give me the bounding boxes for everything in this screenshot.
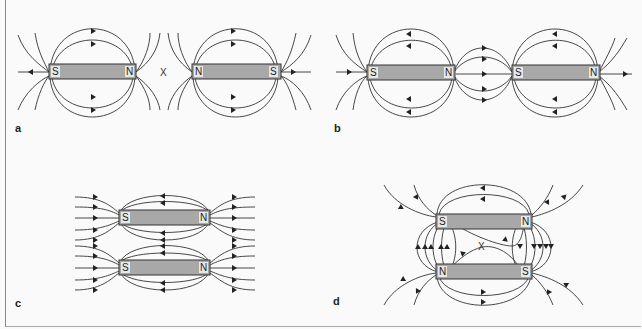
arrow-head: [480, 185, 485, 191]
arrow-head: [232, 227, 237, 233]
pole-label: N: [126, 66, 133, 77]
arrow-head: [93, 265, 98, 271]
arrow-head: [160, 243, 165, 249]
arrow-head: [160, 200, 165, 206]
arrow-head: [543, 244, 549, 249]
arrow-head: [482, 45, 487, 51]
arrow-head: [28, 69, 33, 75]
magnet: N S: [436, 264, 532, 279]
field-line: [599, 38, 615, 72]
arrow-head: [482, 97, 487, 103]
arrow-head: [480, 196, 485, 202]
arrow-head: [552, 43, 557, 49]
panel-label-c: c: [15, 297, 21, 309]
arrow-head: [232, 253, 237, 259]
arrow-head: [481, 289, 486, 295]
arrow-head: [232, 265, 237, 271]
arrow-head: [444, 244, 450, 249]
magnet: S N: [119, 260, 210, 275]
arrow-head: [544, 288, 552, 295]
arrow-head: [544, 198, 552, 205]
field-line: [281, 76, 311, 110]
pole-label: N: [522, 216, 529, 227]
neutral-point: X: [160, 67, 167, 78]
pole-label: S: [515, 67, 522, 78]
field-line: [75, 207, 119, 215]
field-line: [370, 78, 452, 108]
arrow-head: [531, 244, 537, 249]
magnet: S N: [436, 214, 532, 229]
pole-label: S: [52, 66, 59, 77]
arrow-head: [160, 287, 165, 293]
arrow-head: [481, 299, 486, 305]
panel-label-a: a: [15, 122, 21, 134]
arrow-head: [399, 276, 406, 284]
pole-label: S: [522, 266, 529, 277]
field-line: [35, 76, 49, 110]
pole-label: N: [195, 66, 202, 77]
pole-label: N: [590, 67, 597, 78]
magnet: S N: [512, 65, 600, 80]
pole-label: N: [445, 67, 452, 78]
panel-label-d: d: [333, 295, 340, 307]
field-line: [75, 197, 119, 213]
arrow-head: [482, 71, 487, 77]
neutral-point: X: [478, 241, 485, 252]
arrow-head: [406, 31, 411, 37]
pole-label: N: [439, 266, 446, 277]
arrow-head: [552, 96, 557, 102]
arrow-head: [561, 192, 569, 200]
arrow-head: [552, 31, 557, 37]
arrow-head: [406, 96, 411, 102]
arrow-head: [160, 250, 165, 256]
field-line: [414, 185, 436, 215]
arrow-head: [160, 230, 165, 236]
pole-label: N: [200, 212, 207, 223]
field-line: [532, 185, 583, 217]
panel-c-arrows: [93, 193, 237, 293]
panel-a-magnets: S N N S X: [49, 64, 281, 79]
field-line: [514, 78, 596, 108]
pole-label: S: [439, 216, 446, 227]
arrow-head: [623, 71, 628, 77]
arrow-head: [406, 43, 411, 49]
arrow-head: [231, 41, 236, 47]
arrow-head: [160, 280, 165, 286]
arrow-head: [552, 109, 557, 115]
arrow-head: [537, 244, 543, 249]
field-line: [75, 246, 119, 263]
magnet: N S: [192, 64, 281, 79]
field-line: [52, 78, 133, 108]
arrow-head: [438, 244, 444, 249]
arrow-head: [93, 204, 98, 210]
arrow-head: [91, 94, 96, 100]
arrow-head: [93, 253, 98, 259]
field-line: [75, 273, 119, 290]
arrow-head: [232, 277, 237, 283]
arrow-head: [91, 41, 96, 47]
field-line: [417, 222, 438, 272]
field-line: [532, 273, 583, 305]
arrow-head: [232, 204, 237, 210]
magnet: S N: [119, 210, 210, 225]
arrow-head: [93, 215, 98, 221]
field-line: [195, 78, 276, 108]
panel-label-b: b: [334, 122, 341, 134]
pole-label: S: [370, 67, 377, 78]
field-line: [353, 33, 367, 72]
arrow-head: [347, 69, 352, 75]
arrow-head: [231, 94, 236, 100]
field-line: [353, 76, 367, 110]
arrow-head: [93, 237, 98, 243]
arrow-head: [517, 244, 523, 249]
arrow-head: [232, 215, 237, 221]
field-line: [281, 76, 296, 110]
field-line: [532, 185, 553, 215]
field-line: [18, 76, 49, 110]
field-line: [532, 275, 553, 305]
magnet: S N: [367, 65, 455, 80]
magnetic-field-diagram: S N N S X: [0, 0, 642, 329]
arrow-head: [422, 244, 428, 249]
arrow-head: [93, 287, 98, 293]
pole-label: N: [200, 262, 207, 273]
